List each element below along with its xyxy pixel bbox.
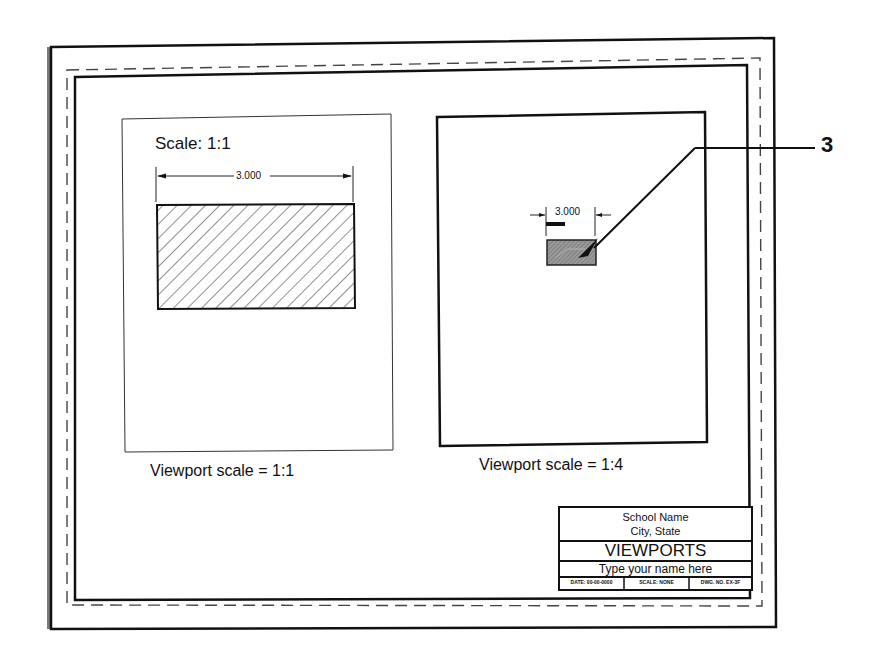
title-block-title: VIEWPORTS [559,541,752,561]
right-viewport-caption: Viewport scale = 1:4 [479,456,623,474]
drawing-sheet [0,0,895,660]
arrowhead-icon [157,174,166,179]
arrowhead-icon [343,174,352,179]
viewport-right[interactable] [437,112,707,446]
left-viewport-scale-note: Scale: 1:1 [155,134,231,154]
hatched-rectangle-large [157,204,355,309]
right-dimension-value: 3.000 [555,206,580,217]
callout-number: 3 [821,132,833,158]
arrowhead-icon [539,213,545,217]
callout-leader [578,148,815,258]
title-block-dwg-no: DWG. NO. EX-3F [689,579,752,585]
title-block-location: City, State [559,525,752,537]
left-viewport-caption: Viewport scale = 1:1 [150,462,294,480]
title-block-date: DATE: 00-00-0000 [559,579,624,585]
title-block-scale: SCALE: NONE [624,579,689,585]
title-block-school: School Name [559,511,752,523]
arrowhead-icon [596,213,602,217]
left-dimension-value: 3.000 [236,170,261,181]
title-block-name-field[interactable]: Type your name here [559,562,752,576]
